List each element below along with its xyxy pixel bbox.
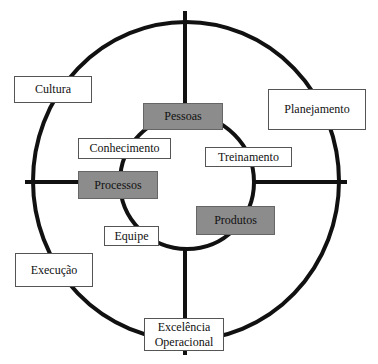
label-execucao: Execução <box>15 253 93 287</box>
label-cultura: Cultura <box>14 76 92 103</box>
label-text: Equipe <box>115 229 149 243</box>
label-text: Conhecimento <box>90 141 160 155</box>
label-treinamento: Treinamento <box>205 147 292 167</box>
label-text: Planejamento <box>284 102 349 116</box>
label-processos: Processos <box>78 171 158 199</box>
label-text: Produtos <box>214 213 257 227</box>
label-equipe: Equipe <box>104 226 159 246</box>
label-excelencia-operacional: Excelência Operacional <box>144 318 224 351</box>
label-text: Cultura <box>35 82 71 96</box>
label-planejamento: Planejamento <box>268 89 366 130</box>
label-text: Pessoas <box>164 109 201 123</box>
label-text: Processos <box>94 178 141 192</box>
label-text: Treinamento <box>218 150 279 164</box>
label-pessoas: Pessoas <box>143 103 223 130</box>
label-text: Execução <box>31 263 78 277</box>
ring-diagram <box>0 0 378 364</box>
label-conhecimento: Conhecimento <box>78 138 171 159</box>
label-produtos: Produtos <box>196 206 275 235</box>
label-text: Excelência Operacional <box>147 320 221 349</box>
